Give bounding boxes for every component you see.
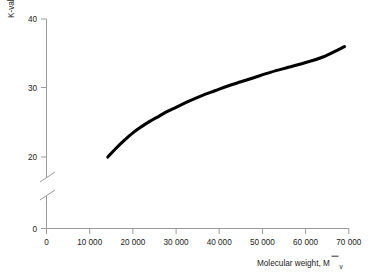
y-tick-label-30: 30 [28, 84, 38, 93]
y-axis-title: K-value [7, 0, 16, 18]
x-tick-label-0: 0 [44, 238, 49, 247]
x-tick-label-50000: 50 000 [250, 238, 275, 247]
chart-background [0, 0, 376, 278]
x-tick-label-70000: 70 000 [336, 238, 361, 247]
y-tick-label-20: 20 [28, 153, 38, 162]
chart-figure: 40 30 20 0 0 10 000 20 000 30 000 40 000… [0, 0, 376, 278]
x-tick-label-30000: 30 000 [164, 238, 189, 247]
x-tick-label-60000: 60 000 [293, 238, 318, 247]
x-tick-label-40000: 40 000 [207, 238, 232, 247]
x-tick-label-20000: 20 000 [120, 238, 145, 247]
x-tick-label-10000: 10 000 [77, 238, 102, 247]
y-tick-label-0: 0 [32, 225, 37, 234]
x-axis-title-main: Molecular weight, M [257, 259, 330, 268]
y-tick-label-40: 40 [28, 15, 38, 24]
